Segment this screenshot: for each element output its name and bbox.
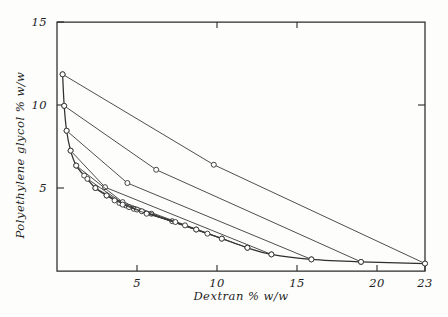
plot-frame — [57, 22, 425, 271]
y-tick-label-5: 5 — [39, 181, 47, 195]
x-axis-ticks — [137, 22, 425, 271]
data-point — [211, 162, 216, 167]
x-axis-title: Dextran % w/w — [192, 289, 288, 303]
data-point — [245, 245, 250, 250]
y-axis-title: Polyethylene glycol % w/w — [13, 72, 27, 240]
data-point — [68, 148, 73, 153]
phase-diagram-figure: 510152023 51015 Dextran % w/w Polyethyle… — [0, 0, 448, 317]
data-point — [74, 163, 79, 168]
data-point — [85, 176, 90, 181]
data-point — [205, 231, 210, 236]
data-point — [154, 167, 159, 172]
y-axis-ticks — [57, 22, 425, 188]
data-point — [104, 193, 109, 198]
axis-frame — [57, 22, 425, 271]
data-point — [112, 198, 117, 203]
x-tick-label-10: 10 — [209, 276, 224, 290]
data-point — [64, 128, 69, 133]
series-tie-line-1 — [60, 72, 427, 266]
data-point — [93, 186, 98, 191]
data-point — [173, 220, 178, 225]
x-tick-label-5: 5 — [133, 276, 141, 290]
series-binodal — [60, 72, 427, 266]
data-point — [62, 103, 67, 108]
phase-diagram-plot: 510152023 51015 Dextran % w/w Polyethyle… — [0, 0, 448, 317]
data-series-layer — [60, 72, 427, 266]
series-path-tie-line-1 — [63, 74, 425, 263]
y-tick-label-10: 10 — [32, 98, 47, 112]
series-tie-line-2 — [62, 103, 364, 264]
x-tick-label-20: 20 — [368, 276, 384, 290]
y-axis-tick-labels: 51015 — [32, 15, 47, 195]
x-tick-label-23: 23 — [416, 276, 432, 290]
data-point — [219, 236, 224, 241]
series-path-tie-line-2 — [64, 106, 361, 262]
data-point — [269, 252, 274, 257]
series-path-tie-line-5 — [76, 166, 247, 248]
data-point — [125, 181, 130, 186]
data-point — [183, 223, 188, 228]
data-point — [60, 72, 65, 77]
data-point — [309, 257, 314, 262]
series-tie-line-4 — [68, 148, 274, 257]
series-tie-line-3 — [64, 128, 314, 262]
data-point — [144, 211, 149, 216]
series-path-tie-line-4 — [71, 151, 272, 255]
y-tick-label-15: 15 — [32, 15, 47, 29]
series-path-binodal — [63, 74, 425, 263]
data-point — [120, 202, 125, 207]
data-point — [359, 259, 364, 264]
data-point — [194, 227, 199, 232]
x-axis-tick-labels: 510152023 — [133, 276, 433, 290]
data-point — [423, 261, 428, 266]
x-tick-label-15: 15 — [289, 276, 304, 290]
